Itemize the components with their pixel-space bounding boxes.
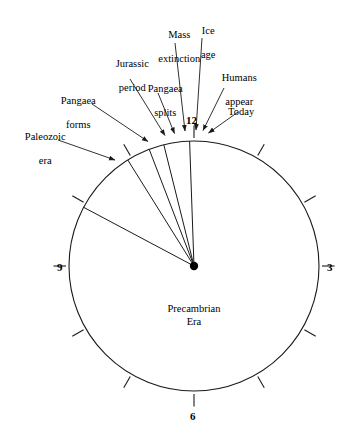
- hand-pangaea-splits: [149, 149, 194, 266]
- clock-number-12-text: 12: [186, 114, 197, 126]
- hand-pangaea-forms: [128, 160, 194, 266]
- clock-number-6: 6: [190, 410, 196, 422]
- annotation-humans-appear-line1: Humans: [222, 72, 257, 83]
- clock-hands: [84, 141, 194, 266]
- hand-ice-age: [190, 141, 194, 266]
- annotation-ice-age-line1: Ice: [202, 25, 215, 36]
- annotation-today-line1: Today: [228, 106, 254, 117]
- annotation-pangaea-splits-line2: splits: [154, 107, 176, 118]
- clock-number-9-text: 9: [57, 261, 63, 273]
- clock-number-6-text: 6: [190, 410, 196, 422]
- clock-number-3-text: 3: [327, 261, 333, 273]
- annotation-pangaea-splits-line1: Pangaea: [148, 83, 183, 94]
- annotation-paleozoic-era-line2: era: [39, 155, 52, 166]
- annotation-pangaea-forms-line2: forms: [66, 119, 91, 130]
- hand-mass-extinction: [164, 145, 194, 266]
- annotation-pangaea-forms-line1: Pangaea: [61, 95, 96, 106]
- figure-canvas: Paleozoic era Pangaea forms Jurassic per…: [0, 0, 345, 444]
- clock-center-dot: [190, 262, 198, 270]
- precambrian-era-line1: Precambrian: [167, 303, 220, 314]
- clock-number-12: 12: [186, 114, 197, 126]
- annotation-today: Today: [214, 94, 258, 130]
- precambrian-era-line2: Era: [187, 316, 202, 327]
- clock-number-3: 3: [327, 261, 333, 273]
- clock-number-9: 9: [57, 261, 63, 273]
- precambrian-era-label: Precambrian Era: [144, 302, 244, 328]
- hand-paleozoic-era: [84, 207, 194, 266]
- annotation-ice-age-line2: age: [201, 49, 216, 60]
- annotation-pangaea-splits: Pangaea splits: [130, 71, 190, 131]
